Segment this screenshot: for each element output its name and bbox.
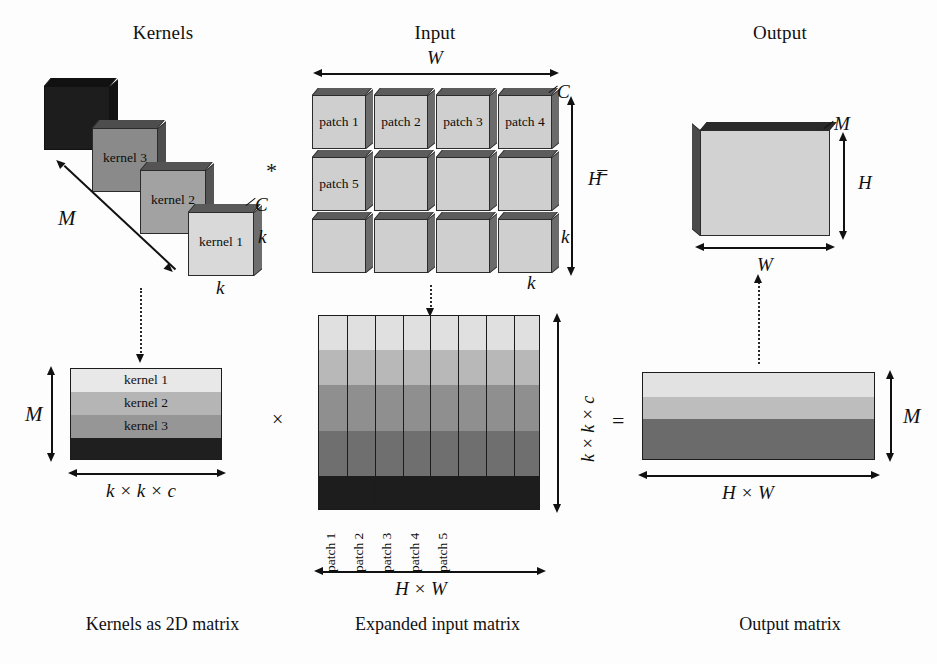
input-dim-k-bottom: k <box>527 272 535 294</box>
input-dim-k-right: k <box>561 226 569 248</box>
kernel-cube-3-top <box>92 120 165 128</box>
input-patch-label-5: patch 5 <box>312 176 366 192</box>
input-patch-cube-5: patch 5 <box>312 157 366 211</box>
output-box-face <box>700 130 830 236</box>
kernel-dim-k-bottom: k <box>216 277 224 299</box>
expanded-matrix-col-divider-5 <box>458 316 459 509</box>
kernel-matrix: kernel 1 kernel 2 kernel 3 <box>70 368 222 460</box>
expanded-matrix-dim-width: H × W <box>395 578 447 600</box>
input-patch-label-2: patch 2 <box>374 114 428 130</box>
input-patch-label-3: patch 3 <box>436 114 490 130</box>
output-matrix-dim-width: H × W <box>722 482 774 504</box>
expanded-input-matrix <box>318 315 540 510</box>
figure-canvas: Kernels Input Output kernel 3 kernel 2 k… <box>0 0 937 664</box>
input-patch-cube-1: patch 1 <box>312 95 366 149</box>
operator-equals-bottom: = <box>612 408 624 434</box>
output-matrix <box>642 372 875 460</box>
kernels-connector-arrowhead <box>136 354 144 363</box>
kernel-dim-k-right: k <box>258 226 266 248</box>
kernel-matrix-dim-width: k × k × c <box>106 480 176 502</box>
output-box-side <box>692 123 700 236</box>
kernel-matrix-label-3: kernel 3 <box>71 418 221 434</box>
input-dim-W: W <box>427 47 443 69</box>
input-patch-cube-3: patch 3 <box>436 95 490 149</box>
output-dim-H: H <box>858 172 872 194</box>
kernel-dim-C: C <box>255 194 268 216</box>
operator-matmul: × <box>272 408 283 431</box>
kernel-matrix-band-4 <box>71 438 221 460</box>
output-connector-arrowhead <box>754 274 762 283</box>
output-H-arrow <box>838 132 850 240</box>
output-matrix-band-2 <box>643 397 874 419</box>
output-matrix-band-1 <box>643 373 874 397</box>
input-patch-cube-7 <box>436 157 490 211</box>
title-output: Output <box>725 22 835 44</box>
output-matrix-M-arrow <box>885 370 897 462</box>
title-kernels: Kernels <box>108 22 218 44</box>
kernel-matrix-width-arrow <box>68 468 226 480</box>
output-box-top <box>700 122 837 130</box>
kernel-matrix-label-1: kernel 1 <box>71 372 221 388</box>
expanded-matrix-width-arrow <box>314 566 546 578</box>
output-matrix-band-3 <box>643 419 874 460</box>
input-patch-cube-6 <box>374 157 428 211</box>
operator-convolution: * <box>266 158 277 184</box>
output-connector-dotted <box>758 282 760 364</box>
input-W-arrow <box>313 68 559 80</box>
input-patch-cube-12 <box>498 219 552 273</box>
kernels-connector-dotted <box>140 288 142 356</box>
output-matrix-dim-M: M <box>903 404 921 429</box>
output-dim-W: W <box>757 254 773 276</box>
expanded-matrix-height-arrow <box>552 313 564 513</box>
input-patch-cube-4: patch 4 <box>498 95 552 149</box>
input-patch-cube-10 <box>374 219 428 273</box>
input-patch-cube-11 <box>436 219 490 273</box>
output-box <box>700 130 830 236</box>
input-patch-cube-2: patch 2 <box>374 95 428 149</box>
caption-expanded-input-matrix: Expanded input matrix <box>330 614 545 635</box>
caption-output-matrix: Output matrix <box>700 614 880 635</box>
kernel-matrix-M-arrow <box>46 366 58 462</box>
kernel-matrix-dim-M: M <box>25 402 43 427</box>
expanded-matrix-col-divider-1 <box>347 316 348 509</box>
expanded-matrix-col-divider-7 <box>514 316 515 509</box>
kernel-dim-M: M <box>58 206 76 231</box>
expanded-matrix-dim-height: k × k × c <box>578 396 599 462</box>
kernel-cube-1: kernel 1 <box>188 212 254 276</box>
kernel-cube-1-top <box>188 204 261 212</box>
input-patch-label-1: patch 1 <box>312 114 366 130</box>
expanded-matrix-col-divider-4 <box>430 316 431 509</box>
kernel-cube-1-label: kernel 1 <box>188 234 254 250</box>
kernel-cube-4-top <box>44 78 117 86</box>
kernel-matrix-label-2: kernel 2 <box>71 395 221 411</box>
expanded-matrix-col-divider-3 <box>403 316 404 509</box>
caption-kernels-matrix: Kernels as 2D matrix <box>55 614 270 635</box>
expanded-matrix-col-divider-6 <box>486 316 487 509</box>
input-patch-cube-8 <box>498 157 552 211</box>
input-patch-cube-9 <box>312 219 366 273</box>
output-W-arrow <box>695 242 835 254</box>
operator-equals-top: = <box>596 160 608 186</box>
expanded-matrix-col-divider-2 <box>375 316 376 509</box>
title-input: Input <box>390 22 480 44</box>
output-matrix-width-arrow <box>638 470 880 482</box>
input-H-arrow <box>566 96 578 276</box>
input-patch-label-4: patch 4 <box>498 114 552 130</box>
